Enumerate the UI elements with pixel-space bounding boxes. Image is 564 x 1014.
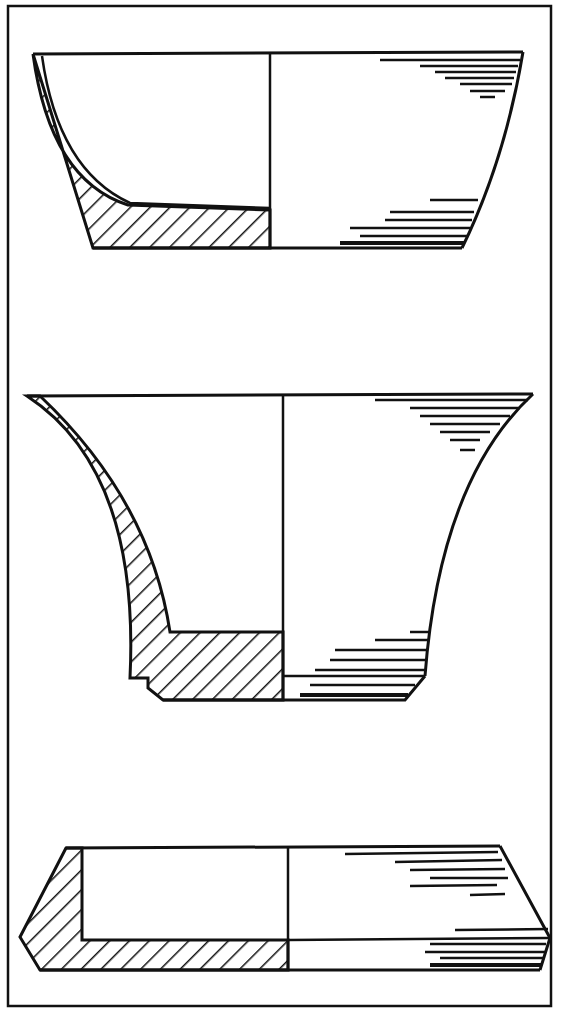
exterior-shading (345, 852, 548, 965)
exterior-shading (340, 60, 520, 243)
vessel-shallow-dish (20, 846, 550, 970)
section-hatch (27, 396, 283, 700)
section-hatch (33, 54, 270, 248)
vessel-deep-bowl (33, 52, 523, 248)
figure-frame (8, 6, 551, 1006)
section-hatch (20, 848, 288, 970)
pottery-drawing (0, 0, 564, 1014)
vessel-flared-cup (27, 394, 533, 700)
exterior-shading (300, 400, 528, 695)
